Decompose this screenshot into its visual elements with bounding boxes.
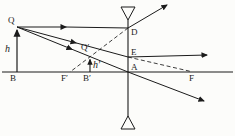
label-image-base: B′ bbox=[83, 73, 91, 83]
ray-parallel-incident-b bbox=[66, 27, 128, 28]
ray-focus-refracted-parallel bbox=[128, 55, 207, 57]
label-object-height: h bbox=[5, 43, 10, 54]
label-image-top: Q′ bbox=[81, 42, 89, 52]
label-right-focus: F bbox=[189, 73, 194, 83]
lens-bottom-arrowhead bbox=[121, 116, 135, 129]
ray-center-incident-a bbox=[17, 27, 72, 49]
label-object-base: B bbox=[10, 73, 16, 83]
ray-center bbox=[17, 27, 204, 101]
label-lens-mid-point: E bbox=[131, 47, 137, 57]
label-optical-center: A bbox=[131, 62, 138, 72]
ray-focus-incident-a bbox=[17, 27, 76, 43]
ray-diagram-canvas: Q h B D E A F′ F Q′ h′ B′ bbox=[0, 0, 235, 136]
lens-ray-diagram: Q h B D E A F′ F Q′ h′ B′ bbox=[0, 0, 235, 136]
ray-toward-focus bbox=[17, 27, 207, 72]
ray-parallel bbox=[17, 5, 167, 72]
label-left-focus: F′ bbox=[61, 73, 68, 83]
lens-top-arrowhead bbox=[121, 7, 135, 20]
label-lens-upper-point: D bbox=[131, 27, 138, 37]
label-object-top: Q bbox=[8, 15, 15, 25]
label-image-height: h′ bbox=[93, 59, 101, 70]
